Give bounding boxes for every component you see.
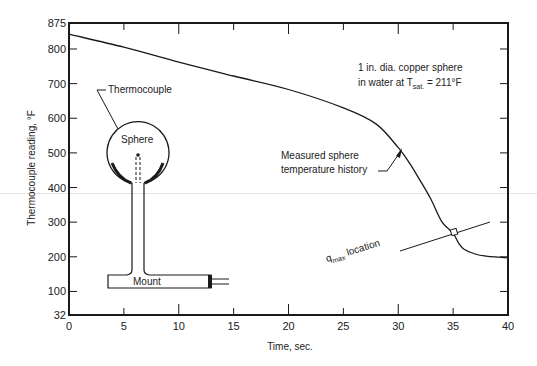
y-tick-label: 800 [48, 43, 66, 55]
y-tick-label: 500 [48, 147, 66, 159]
y-tick-label: 32 [54, 309, 66, 321]
curve-label-line-1: Measured sphere [281, 150, 359, 161]
y-tick-label: 700 [48, 78, 66, 90]
thermocouple-junction [136, 153, 140, 157]
y-tick-label: 200 [48, 251, 66, 263]
sphere-diagram: Sphere Mount [107, 122, 229, 288]
x-tick-label: 30 [392, 320, 404, 332]
temperature-chart: 0510152025303540 87580070060050040030020… [0, 0, 537, 366]
mount-label: Mount [133, 276, 161, 287]
y-tick-label: 600 [48, 112, 66, 124]
qmax-label: qmax location [324, 237, 381, 266]
x-tick-label: 35 [447, 320, 459, 332]
x-tick-label: 25 [337, 320, 349, 332]
x-axis-title: Time, sec. [267, 341, 313, 352]
mount-stem [108, 183, 211, 288]
y-axis-title: Thermocouple reading, °F [26, 110, 37, 226]
x-tick-label: 40 [502, 320, 514, 332]
x-tick-label: 10 [173, 320, 185, 332]
note-line-2: in water at Tsat. = 211°F [358, 77, 462, 90]
sphere-label: Sphere [121, 134, 154, 145]
svg-text:qmax location: qmax location [324, 237, 381, 266]
note-line-1: 1 in. dia. copper sphere [358, 62, 463, 73]
x-tick-label: 5 [121, 320, 127, 332]
y-tick-label: 300 [48, 216, 66, 228]
y-tick-label: 875 [48, 17, 66, 29]
y-tick-label: 400 [48, 182, 66, 194]
mount-plug [208, 275, 212, 288]
sphere-outline [107, 122, 169, 183]
curve-label-line-2: temperature history [281, 164, 367, 175]
thermocouple-label: Thermocouple [108, 84, 172, 95]
y-tick-label: 100 [48, 285, 66, 297]
x-tick-label: 15 [228, 320, 240, 332]
x-tick-label: 0 [66, 320, 72, 332]
qmax-marker [450, 228, 457, 235]
x-tick-label: 20 [282, 320, 294, 332]
